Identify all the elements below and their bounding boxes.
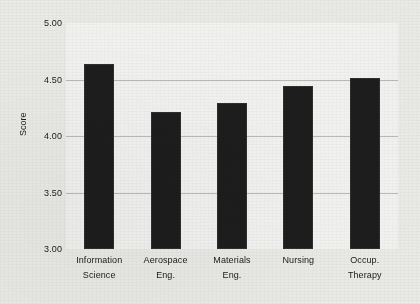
bar <box>84 64 114 249</box>
x-axis-ticks: InformationScienceAerospaceEng.Materials… <box>66 253 398 299</box>
y-tick-label: 5.00 <box>4 18 62 28</box>
plot-area <box>66 23 398 249</box>
x-tick-label-line: Nursing <box>265 253 331 268</box>
x-tick-label-line: Therapy <box>332 268 398 283</box>
x-tick-label-line: Information <box>66 253 132 268</box>
x-tick-label: InformationScience <box>66 253 132 282</box>
x-tick-label-line: Occup. <box>332 253 398 268</box>
x-tick-label: MaterialsEng. <box>199 253 265 282</box>
x-tick-label: Nursing <box>265 253 331 268</box>
x-tick-label-line: Eng. <box>132 268 198 283</box>
y-axis-ticks: 5.004.504.003.503.00 <box>0 0 62 304</box>
y-tick-label: 3.50 <box>4 188 62 198</box>
bar-chart-figure: 5.004.504.003.503.00 Score InformationSc… <box>0 0 420 304</box>
bar <box>283 86 313 249</box>
gridline <box>66 80 398 81</box>
x-tick-label-line: Science <box>66 268 132 283</box>
y-tick-label: 4.00 <box>4 131 62 141</box>
x-tick-label-line: Aerospace <box>132 253 198 268</box>
x-tick-label: Occup.Therapy <box>332 253 398 282</box>
bar <box>217 103 247 249</box>
x-tick-label-line: Eng. <box>199 268 265 283</box>
y-axis-label: Score <box>18 112 28 136</box>
x-tick-label-line: Materials <box>199 253 265 268</box>
y-tick-label: 3.00 <box>4 244 62 254</box>
bar <box>350 78 380 249</box>
y-tick-label: 4.50 <box>4 75 62 85</box>
x-tick-label: AerospaceEng. <box>132 253 198 282</box>
plot-inner <box>66 23 398 249</box>
bar <box>151 112 181 249</box>
